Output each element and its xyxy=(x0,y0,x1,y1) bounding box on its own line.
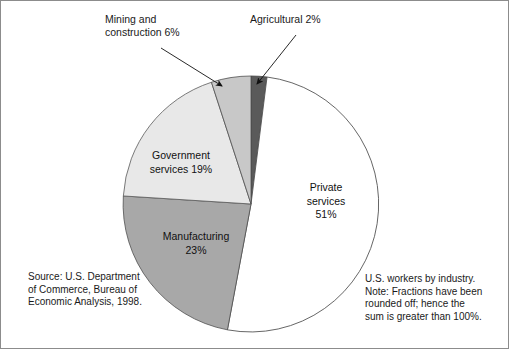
leader-line-mining xyxy=(161,48,222,86)
slice-label-private-services: Private services 51% xyxy=(289,181,363,222)
callout-label-agricultural: Agricultural 2% xyxy=(250,13,360,26)
slice-label-manufacturing: Manufacturing 23% xyxy=(141,230,251,257)
figure-container: Mining and construction 6% Agricultural … xyxy=(0,0,509,349)
source-note: Source: U.S. Department of Commerce, Bur… xyxy=(28,271,158,309)
slice-label-government-services: Government services 19% xyxy=(129,149,233,176)
leader-line-agricultural xyxy=(257,35,296,84)
caption-note: U.S. workers by industry. Note: Fraction… xyxy=(365,273,507,323)
callout-label-mining-and-construction: Mining and construction 6% xyxy=(105,13,209,39)
